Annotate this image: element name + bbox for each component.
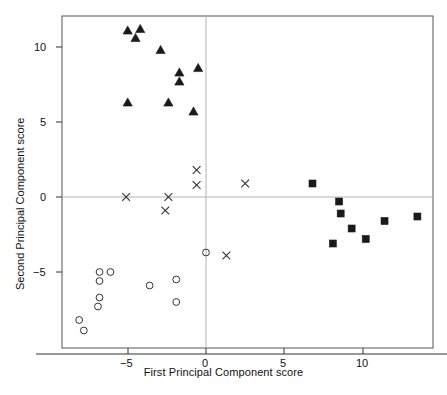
data-point-triangles	[175, 68, 184, 76]
data-point-circles	[96, 294, 103, 301]
data-point-squares	[336, 198, 343, 205]
y-axis-ticks	[56, 47, 62, 272]
data-point-triangles	[123, 98, 132, 106]
data-point-circles	[80, 327, 87, 334]
data-point-crosses	[241, 180, 249, 188]
data-point-triangles	[131, 33, 140, 41]
data-point-squares	[414, 213, 421, 220]
data-point-circles	[95, 303, 102, 310]
data-point-crosses	[222, 252, 230, 260]
data-point-crosses	[193, 166, 201, 174]
data-point-squares	[337, 210, 344, 217]
x-axis-label: First Principal Component score	[0, 366, 447, 378]
y-tick-label-0: 0	[40, 191, 46, 203]
data-point-triangles	[189, 107, 198, 115]
data-point-triangles	[194, 63, 203, 71]
plot-canvas	[0, 0, 447, 395]
data-point-circles	[173, 299, 180, 306]
data-point-triangles	[156, 45, 165, 53]
data-point-circles	[96, 269, 103, 276]
data-point-circles	[96, 278, 103, 285]
plot-frame	[62, 16, 433, 348]
data-point-circles	[173, 276, 180, 283]
data-point-squares	[362, 236, 369, 243]
data-point-triangles	[175, 77, 184, 85]
y-tick-label-10: 10	[34, 41, 46, 53]
data-point-squares	[329, 240, 336, 247]
data-point-crosses	[193, 181, 201, 189]
y-tick-label-minus5: −5	[33, 266, 46, 278]
data-point-squares	[309, 180, 316, 187]
data-markers-group	[76, 24, 421, 334]
data-point-triangles	[164, 98, 173, 106]
data-point-circles	[146, 282, 153, 289]
data-point-circles	[76, 317, 83, 324]
data-point-circles	[107, 269, 114, 276]
x-axis-ticks	[36, 348, 447, 354]
data-point-triangles	[136, 24, 145, 32]
data-point-triangles	[123, 26, 132, 34]
data-point-crosses	[161, 207, 169, 215]
data-point-squares	[348, 225, 355, 232]
y-axis-label-container: Second Principal Component score	[0, 0, 30, 360]
y-axis-label: Second Principal Component score	[14, 118, 26, 290]
data-point-squares	[381, 218, 388, 225]
y-tick-label-5: 5	[40, 116, 46, 128]
scatter-plot-figure: 10 5 0 −5 −5 0 5 10 First Principal Comp…	[0, 0, 447, 395]
